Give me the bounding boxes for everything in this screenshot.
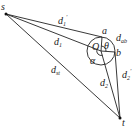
label-o: O — [92, 42, 99, 52]
label-alpha: α — [90, 56, 95, 66]
label-d2: d2 — [100, 78, 108, 89]
label-dab: dab — [116, 33, 127, 44]
label-d1-prime: d1′ — [58, 14, 67, 27]
label-a: a — [102, 26, 107, 36]
line-o-b — [101, 51, 115, 52]
label-t: t — [122, 118, 125, 128]
diagram: s t O a b θ α d1′ d1 dab d2′ d2 dst — [0, 0, 134, 133]
line-o-a — [101, 37, 102, 51]
label-dst: dst — [51, 65, 60, 76]
label-theta: θ — [104, 41, 109, 51]
label-d1: d1 — [54, 37, 62, 48]
label-b: b — [116, 48, 121, 58]
line-s-a — [6, 14, 102, 37]
label-d2-prime: d2′ — [122, 68, 131, 81]
point-s — [5, 13, 8, 16]
label-s: s — [1, 2, 5, 12]
